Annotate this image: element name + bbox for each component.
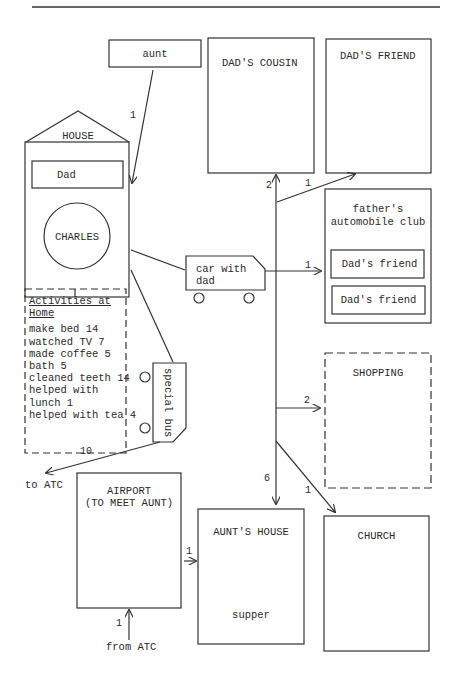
edge-count-shopping: 2 (304, 395, 310, 406)
church-label: CHURCH (324, 530, 429, 542)
house-label: HOUSE (26, 130, 130, 142)
arrow-bus-to-atc (46, 442, 160, 473)
activities-title-1: Activities at (29, 295, 136, 307)
edge-count-aunts-house: 6 (264, 473, 270, 484)
car-wheel-left (194, 293, 204, 303)
arrow-aunt-to-house (132, 70, 153, 183)
bus-label: special bus (162, 368, 174, 437)
edge-count-from-atc: 1 (116, 618, 122, 629)
edge-count-dads-friend: 1 (305, 178, 311, 189)
auto-club-label-1: father's (325, 203, 431, 215)
to-atc-label: to ATC (25, 479, 63, 491)
airport-label-2: (TO MEET AUNT) (77, 497, 181, 509)
activity-item: helped with (29, 384, 136, 396)
edge-count-bus-atc: 10 (80, 446, 92, 457)
car-label-1: car with (196, 263, 246, 275)
house-to-car-line (131, 250, 185, 270)
dad-label: Dad (57, 169, 76, 181)
edge-count-cousin: 2 (266, 180, 272, 191)
activity-item: made coffee 5 (29, 348, 136, 360)
shopping-label: SHOPPING (325, 367, 431, 379)
bus-wheel-bottom (140, 423, 150, 433)
dads-cousin-label: DAD'S COUSIN (222, 57, 298, 69)
bus-wheel-top (140, 372, 150, 382)
activity-item: cleaned teeth 14 (29, 372, 136, 384)
house-to-bus-line (131, 270, 173, 362)
dads-friend-label: DAD'S FRIEND (340, 50, 416, 62)
club-friend-1-label: Dad's friend (333, 258, 426, 270)
auto-club-label-2: automobile club (325, 216, 431, 228)
edge-count-church: 1 (305, 485, 311, 496)
house-box (25, 142, 129, 297)
activity-item: make bed 14 (29, 323, 136, 335)
activity-item: bath 5 (29, 360, 136, 372)
arrow-to-dads-friend (277, 174, 355, 202)
aunt-label: aunt (109, 48, 201, 60)
dad-box (32, 161, 123, 188)
aunts-house-label: AUNT'S HOUSE (198, 526, 304, 538)
arrow-to-church (276, 441, 335, 512)
edge-count-club: 1 (305, 260, 311, 271)
activities-title-2: Home (29, 307, 136, 319)
car-label-2: dad (196, 275, 215, 287)
activities-list: Activities at Home make bed 14 watched T… (29, 295, 136, 421)
edge-count-aunt-house: 1 (130, 110, 136, 121)
club-friend-2-label: Dad's friend (332, 294, 425, 306)
activity-item: lunch 1 (29, 397, 136, 409)
car-wheel-right (244, 293, 254, 303)
activity-item: helped with tea 4 (29, 409, 136, 421)
charles-label: CHARLES (44, 231, 110, 243)
activity-item: watched TV 7 (29, 336, 136, 348)
airport-label-1: AIRPORT (77, 485, 181, 497)
supper-label: supper (198, 609, 304, 621)
from-atc-label: from ATC (106, 641, 156, 653)
edge-count-airport-aunts: 1 (186, 546, 192, 557)
